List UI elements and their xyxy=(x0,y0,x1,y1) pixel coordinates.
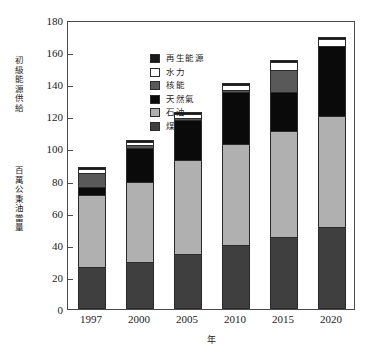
y-axis-title-units: 百萬公秉油當量 xyxy=(13,166,22,233)
bar-segment-2015-煤 xyxy=(270,237,298,309)
x-axis-tick-2020: 2020 xyxy=(301,313,361,325)
legend-swatch-oil-icon xyxy=(150,108,160,117)
y-axis-tick-160: 160 xyxy=(33,48,63,59)
bar-segment-2000-天然氣 xyxy=(126,148,154,182)
legend-label-2: 核能 xyxy=(166,81,185,90)
legend-item-3[interactable]: 天然氣 xyxy=(150,94,204,105)
y-axis-tick-140: 140 xyxy=(33,80,63,91)
bar-2000[interactable] xyxy=(126,140,154,309)
bar-segment-1997-核能 xyxy=(78,173,106,187)
bar-segment-1997-天然氣 xyxy=(78,187,106,195)
bar-segment-2020-天然氣 xyxy=(318,46,346,117)
x-axis-tick-labels: 199720002005201020152020 xyxy=(67,313,355,331)
legend-item-4[interactable]: 石油 xyxy=(150,107,204,118)
chart-legend: 再生能源水力核能天然氣石油煤 xyxy=(150,53,204,132)
legend-item-1[interactable]: 水力 xyxy=(150,67,204,78)
y-axis-tick-mark xyxy=(68,86,73,87)
y-axis-tick-40: 40 xyxy=(33,240,63,251)
legend-label-1: 水力 xyxy=(166,68,185,77)
legend-label-3: 天然氣 xyxy=(166,95,195,104)
bar-segment-2010-煤 xyxy=(222,245,250,309)
stacked-bar-chart-figure: 初級能源供給 百萬公秉油當量 020406080100120140160180 … xyxy=(0,0,366,358)
y-axis-tick-100: 100 xyxy=(33,144,63,155)
bars-container xyxy=(68,22,354,309)
bar-segment-2005-煤 xyxy=(174,254,202,309)
bar-segment-2005-石油 xyxy=(174,160,202,255)
y-axis-tick-120: 120 xyxy=(33,112,63,123)
y-axis-tick-mark xyxy=(68,183,73,184)
y-axis-tick-mark xyxy=(68,54,73,55)
bar-segment-2010-天然氣 xyxy=(222,92,250,143)
y-axis-tick-mark xyxy=(68,247,73,248)
legend-label-0: 再生能源 xyxy=(166,54,204,63)
bar-segment-2020-煤 xyxy=(318,227,346,309)
x-axis-title: 年 xyxy=(67,333,355,346)
bar-segment-2015-天然氣 xyxy=(270,92,298,131)
bar-segment-2010-石油 xyxy=(222,144,250,245)
bar-segment-2000-石油 xyxy=(126,182,154,262)
y-axis-tick-mark xyxy=(68,279,73,280)
legend-swatch-nuclear-icon xyxy=(150,81,160,90)
bar-1997[interactable] xyxy=(78,167,106,309)
bar-segment-1997-石油 xyxy=(78,195,106,267)
legend-swatch-renewable-icon xyxy=(150,54,160,63)
legend-item-0[interactable]: 再生能源 xyxy=(150,53,204,64)
legend-swatch-natural-gas-icon xyxy=(150,95,160,104)
legend-item-2[interactable]: 核能 xyxy=(150,80,204,91)
legend-item-5[interactable]: 煤 xyxy=(150,121,204,132)
y-axis-tick-mark xyxy=(68,215,73,216)
bar-segment-2020-石油 xyxy=(318,116,346,227)
bar-segment-2015-核能 xyxy=(270,70,298,92)
bar-2015[interactable] xyxy=(270,60,298,309)
bar-2010[interactable] xyxy=(222,83,250,309)
legend-label-4: 石油 xyxy=(166,108,185,117)
legend-label-5: 煤 xyxy=(166,122,176,131)
y-axis-tick-20: 20 xyxy=(33,272,63,283)
bar-2020[interactable] xyxy=(318,37,346,309)
bar-segment-2000-煤 xyxy=(126,262,154,309)
y-axis-tick-mark xyxy=(68,150,73,151)
bar-segment-2015-水力 xyxy=(270,62,298,70)
legend-swatch-hydro-icon xyxy=(150,68,160,77)
y-axis-tick-labels: 020406080100120140160180 xyxy=(30,0,63,358)
y-axis-tick-60: 60 xyxy=(33,208,63,219)
y-axis-tick-mark xyxy=(68,118,73,119)
bar-segment-2015-石油 xyxy=(270,131,298,237)
y-axis-title-primary: 初級能源供給 xyxy=(13,56,22,113)
y-axis-tick-0: 0 xyxy=(33,305,63,316)
bar-segment-1997-煤 xyxy=(78,267,106,309)
legend-swatch-coal-icon xyxy=(150,122,160,131)
y-axis-tick-180: 180 xyxy=(33,16,63,27)
bar-2005[interactable] xyxy=(174,112,202,309)
plot-area: 再生能源水力核能天然氣石油煤 xyxy=(67,21,355,310)
y-axis-tick-80: 80 xyxy=(33,176,63,187)
